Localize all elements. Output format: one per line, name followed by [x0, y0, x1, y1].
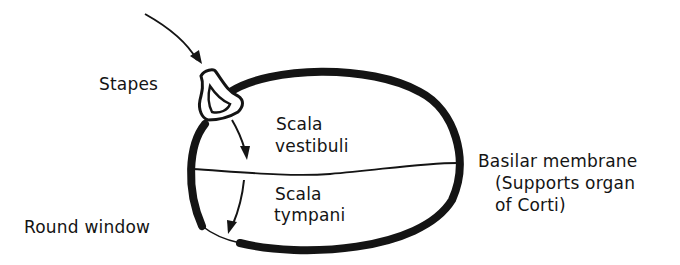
vestibuli-arrow — [232, 120, 245, 150]
round-window-label: Round window — [24, 217, 150, 237]
stapes-bone — [199, 70, 242, 120]
round-window — [202, 226, 240, 243]
scala-vestibuli-label-2: vestibuli — [275, 136, 349, 156]
basilar-membrane-label-3: of Corti) — [495, 195, 566, 215]
cochlea-wall-left — [191, 124, 205, 226]
scala-vestibuli-label-1: Scala — [276, 114, 323, 134]
basilar-membrane-label-2: (Supports organ — [495, 173, 635, 193]
tympani-arrow — [233, 180, 244, 224]
incoming-arrow — [145, 14, 197, 60]
scala-tympani-label-1: Scala — [275, 184, 322, 204]
basilar-membrane-label-1: Basilar membrane — [478, 151, 637, 171]
basilar-membrane — [192, 163, 458, 175]
stapes-label: Stapes — [99, 74, 158, 94]
scala-tympani-label-2: tympani — [274, 205, 345, 225]
vestibuli-arrow-head — [240, 146, 250, 160]
tympani-arrow-head — [227, 220, 237, 234]
